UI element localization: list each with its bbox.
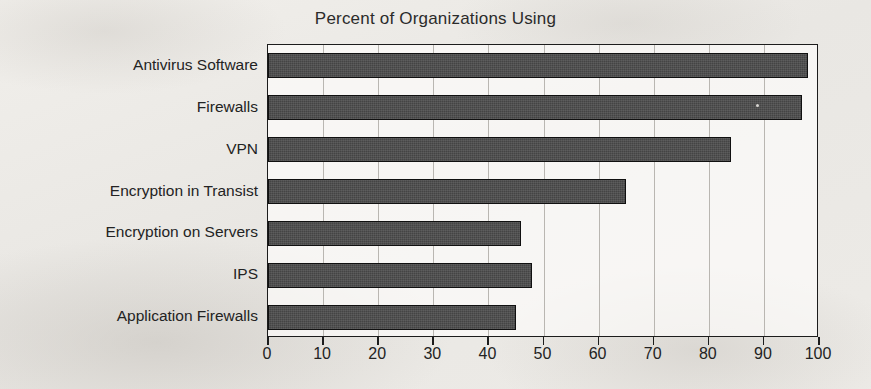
x-axis-tick-label: 100 bbox=[805, 345, 832, 363]
bar bbox=[268, 53, 808, 78]
x-axis-tick-label: 70 bbox=[644, 345, 662, 363]
x-axis-tick-label: 60 bbox=[589, 345, 607, 363]
x-axis-tick bbox=[818, 337, 820, 345]
x-axis-ticks bbox=[267, 337, 818, 345]
bar bbox=[268, 179, 626, 204]
category-axis-labels: Antivirus SoftwareFirewallsVPNEncryption… bbox=[0, 44, 258, 337]
bars-layer bbox=[268, 45, 817, 336]
plot-area bbox=[267, 44, 818, 337]
category-label: IPS bbox=[0, 265, 258, 283]
bar bbox=[268, 95, 802, 120]
x-axis-tick bbox=[322, 337, 324, 345]
x-axis-tick-label: 50 bbox=[534, 345, 552, 363]
category-label: Antivirus Software bbox=[0, 56, 258, 74]
category-label: Firewalls bbox=[0, 98, 258, 116]
x-axis-tick-label: 40 bbox=[478, 345, 496, 363]
scan-speck bbox=[756, 104, 759, 107]
chart-title: Percent of Organizations Using bbox=[0, 9, 871, 29]
bar bbox=[268, 221, 521, 246]
x-axis-tick bbox=[377, 337, 379, 345]
category-label: Encryption in Transist bbox=[0, 182, 258, 200]
x-axis-tick bbox=[267, 337, 269, 345]
category-label: VPN bbox=[0, 140, 258, 158]
x-axis-tick bbox=[708, 337, 710, 345]
x-axis-tick-label: 20 bbox=[368, 345, 386, 363]
category-label: Encryption on Servers bbox=[0, 223, 258, 241]
bar bbox=[268, 137, 731, 162]
category-label: Application Firewalls bbox=[0, 307, 258, 325]
x-axis-tick bbox=[763, 337, 765, 345]
x-axis-tick bbox=[543, 337, 545, 345]
x-axis-tick bbox=[432, 337, 434, 345]
x-axis-tick-label: 10 bbox=[313, 345, 331, 363]
x-axis-tick-labels: 0102030405060708090100 bbox=[267, 345, 818, 369]
x-axis-tick-label: 0 bbox=[263, 345, 272, 363]
x-axis-tick bbox=[487, 337, 489, 345]
x-axis-tick-label: 90 bbox=[754, 345, 772, 363]
bar bbox=[268, 305, 516, 330]
x-axis-tick bbox=[598, 337, 600, 345]
x-axis-tick-label: 80 bbox=[699, 345, 717, 363]
x-axis-tick bbox=[653, 337, 655, 345]
bar bbox=[268, 263, 532, 288]
x-axis-tick-label: 30 bbox=[423, 345, 441, 363]
bar-chart: Percent of Organizations Using Antivirus… bbox=[0, 0, 871, 389]
